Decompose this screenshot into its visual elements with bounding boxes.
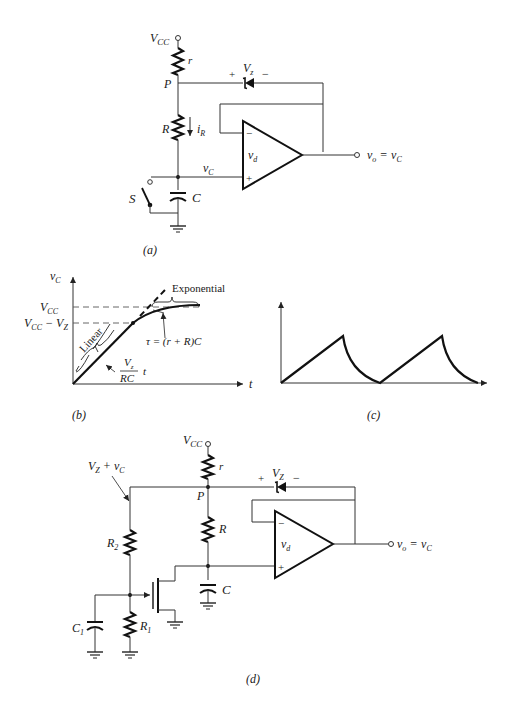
svg-text:r: r (219, 460, 224, 472)
caption-a: (a) (143, 243, 157, 257)
svg-text:R1: R1 (139, 619, 151, 635)
op-amp-d: − + vd (275, 511, 333, 578)
svg-text:C: C (192, 190, 201, 205)
resistor-r-d (203, 455, 213, 479)
svg-text:VCC: VCC (183, 433, 203, 449)
resistor-R1 (125, 612, 135, 637)
vcc-terminal-d (206, 442, 211, 447)
panel-a: VCC r P + Vz − R iR vC (129, 31, 402, 257)
svg-text:R: R (218, 522, 227, 536)
svg-text:+: + (258, 472, 264, 484)
svg-text:S: S (129, 191, 136, 206)
svg-text:−: − (278, 517, 284, 529)
svg-text:−: − (246, 127, 252, 139)
svg-text:C1: C1 (72, 621, 84, 637)
switch-S (142, 188, 150, 205)
sawtooth-waveform (281, 336, 478, 383)
svg-text:VCC − VZ: VCC − VZ (24, 316, 68, 332)
svg-text:VCC: VCC (40, 300, 59, 316)
caption-c: (c) (367, 408, 380, 422)
panel-c: (c) (281, 302, 487, 422)
mosfet (153, 566, 208, 622)
svg-text:R: R (161, 122, 170, 136)
svg-text:vo=vC: vo=vC (367, 148, 402, 164)
ground-icon (87, 652, 103, 658)
svg-text:+: + (278, 561, 284, 573)
vcc-terminal: VCC (150, 31, 181, 47)
ground-icon (122, 652, 138, 658)
resistor-R-d (203, 517, 213, 542)
svg-text:−: − (262, 67, 269, 81)
panel-b: vC t VCC VCC − VZ Linear Exponential τ =… (24, 269, 253, 422)
svg-text:vC: vC (50, 269, 61, 285)
svg-text:iR: iR (197, 122, 205, 138)
svg-text:VCC: VCC (150, 31, 170, 47)
ground-icon (167, 622, 183, 628)
svg-text:+: + (246, 172, 252, 184)
svg-text:Vz: Vz (124, 356, 134, 371)
svg-text:Linear: Linear (77, 325, 105, 355)
zener-diode-d (275, 482, 286, 493)
ground-icon (200, 603, 216, 609)
node-p-label: P (163, 77, 172, 91)
svg-text:C: C (222, 582, 231, 597)
panel-d: VCC r P + VZ − R C (72, 433, 432, 686)
svg-text:P: P (196, 489, 205, 503)
svg-text:VZ + vC: VZ + vC (88, 459, 125, 475)
svg-text:r: r (188, 54, 193, 66)
svg-text:vo=vC: vo=vC (397, 537, 432, 553)
svg-text:vC: vC (203, 161, 214, 177)
svg-text:+: + (229, 68, 235, 80)
svg-text:Vz: Vz (243, 61, 254, 77)
output-terminal-d (389, 542, 394, 547)
svg-text:τ = (r + R)C: τ = (r + R)C (146, 335, 202, 348)
output-terminal (355, 153, 360, 158)
caption-d: (d) (246, 672, 260, 686)
op-amp: − + vd (243, 121, 302, 189)
svg-text:−: − (293, 471, 300, 485)
svg-text:t: t (249, 377, 253, 391)
svg-text:t: t (143, 365, 147, 377)
resistor-R2 (125, 530, 135, 555)
resistor-R (173, 115, 183, 140)
svg-text:Exponential: Exponential (172, 282, 225, 294)
svg-text:R2: R2 (106, 536, 118, 552)
resistor-r (173, 48, 183, 75)
svg-text:VZ: VZ (272, 466, 284, 482)
ground-icon (170, 226, 186, 232)
caption-b: (b) (72, 408, 86, 422)
svg-text:RC: RC (119, 372, 135, 384)
zener-diode (243, 78, 254, 89)
circuit-figure: VCC r P + Vz − R iR vC (0, 0, 510, 706)
